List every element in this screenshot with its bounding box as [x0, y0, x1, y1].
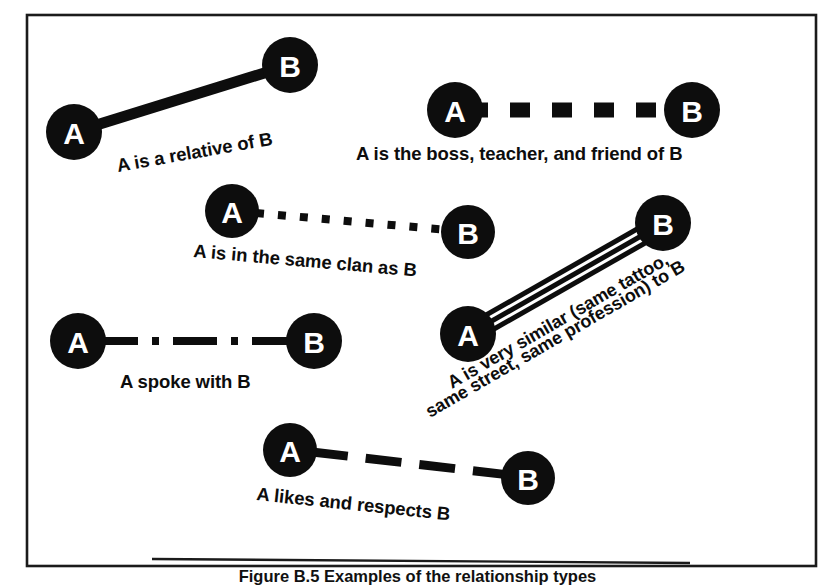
node-spoke-b-label: B	[303, 326, 325, 359]
node-similar-a-label: A	[457, 319, 479, 352]
caption-spoke-with: A spoke with B	[120, 371, 251, 392]
node-spoke-a-label: A	[67, 326, 89, 359]
figure-caption: Figure B.5 Examples of the relationship …	[0, 568, 835, 585]
node-clan-b-label: B	[457, 217, 479, 250]
node-relative-b-label: B	[279, 50, 301, 83]
node-relative-a-label: A	[63, 117, 85, 150]
caption-boss-teacher-friend: A is the boss, teacher, and friend of B	[356, 143, 682, 164]
node-likes-a-label: A	[279, 435, 301, 468]
node-similar-b-label: B	[652, 208, 674, 241]
node-likes-b-label: B	[517, 463, 539, 496]
node-boss-b-label: B	[681, 95, 703, 128]
node-clan-a-label: A	[221, 196, 243, 229]
node-boss-a-label: A	[444, 95, 466, 128]
